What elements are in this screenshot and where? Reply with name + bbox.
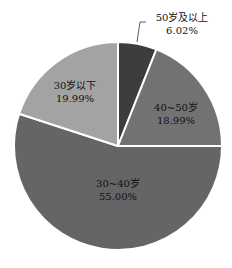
leader-line-50-plus [137,22,146,42]
slice-label-value: 55.00% [99,191,137,202]
slice-label-name: 40~50岁 [154,101,198,113]
slice-label-value: 6.02% [166,25,198,36]
slice-label-name: 30岁以下 [54,79,97,91]
slice-label-value: 19.99% [56,93,94,104]
slice-label-50-plus: 50岁及以上 6.02% [156,11,209,36]
slice-label-name: 50岁及以上 [156,11,209,23]
pie-chart: 50岁及以上 6.02% 40~50岁 18.99% 30~40岁 55.00%… [0,0,232,268]
slice-label-name: 30~40岁 [96,177,140,189]
pie-slices [14,42,222,250]
slice-label-value: 18.99% [157,115,195,126]
